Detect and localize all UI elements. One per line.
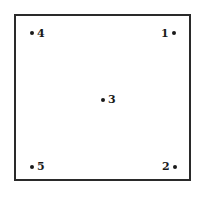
- point-2-dot: [173, 165, 177, 169]
- point-3-dot: [101, 98, 105, 102]
- point-1-dot: [172, 31, 176, 35]
- point-5-label: 5: [37, 161, 45, 172]
- point-4-label: 4: [37, 28, 45, 39]
- point-4-dot: [30, 31, 34, 35]
- point-1-label: 1: [161, 28, 169, 39]
- point-3-label: 3: [108, 94, 116, 105]
- point-5-dot: [30, 165, 34, 169]
- point-2-label: 2: [162, 161, 170, 172]
